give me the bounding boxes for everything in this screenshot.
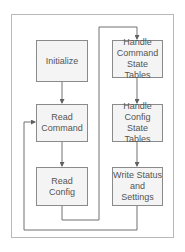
- node-initialize: Initialize: [36, 40, 88, 82]
- node-write-status-and-settings: Write Status and Settings: [112, 167, 163, 206]
- node-handle-config-state-tables: Handle Config State Tables: [112, 104, 163, 142]
- node-handle-command-state-tables: Handle Command State Tables: [112, 40, 163, 78]
- node-read-command: Read Command: [36, 104, 88, 142]
- node-read-config: Read Config: [36, 167, 88, 206]
